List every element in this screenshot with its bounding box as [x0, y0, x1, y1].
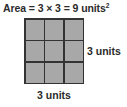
grid-cell	[65, 41, 83, 61]
grid-cell	[45, 41, 63, 61]
grid-cell	[26, 41, 44, 61]
grid-cell	[65, 20, 83, 40]
side-length-label-bottom: 3 units	[24, 88, 84, 102]
side-length-label-right: 3 units	[87, 44, 121, 58]
area-equation: Area = 3 × 3 = 9 units2	[3, 1, 124, 15]
square-grid	[24, 18, 84, 84]
grid-cell	[26, 63, 44, 83]
equation-area-word: Area	[3, 2, 26, 14]
area-figure: Area = 3 × 3 = 9 units2 3 units 3 units	[0, 0, 127, 107]
grid-cell	[45, 20, 63, 40]
equation-exponent: 2	[106, 2, 110, 9]
grid-cell	[65, 63, 83, 83]
grid-cell	[45, 63, 63, 83]
grid-cell	[26, 20, 44, 40]
equation-unit: units	[81, 2, 106, 14]
